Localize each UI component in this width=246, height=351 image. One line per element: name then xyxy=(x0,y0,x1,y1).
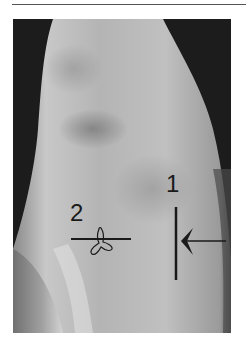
top-rule xyxy=(12,4,246,5)
label-1: 1 xyxy=(166,172,179,196)
photo-image xyxy=(13,19,231,333)
label-2: 2 xyxy=(70,201,83,225)
photo xyxy=(13,19,231,333)
